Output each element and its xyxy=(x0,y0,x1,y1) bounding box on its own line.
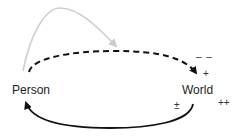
symbol-minus-minus: – – xyxy=(196,52,213,62)
solid-arrow-world-to-person xyxy=(26,103,193,128)
dashed-arrow-person-to-world xyxy=(29,51,196,73)
node-person: Person xyxy=(12,84,50,96)
symbol-plus: + xyxy=(203,69,209,79)
symbol-plus-plus: ++ xyxy=(218,98,230,108)
grey-influence-arrow xyxy=(23,8,116,71)
node-world: World xyxy=(182,84,213,96)
symbol-plus-minus: ± xyxy=(174,101,180,111)
